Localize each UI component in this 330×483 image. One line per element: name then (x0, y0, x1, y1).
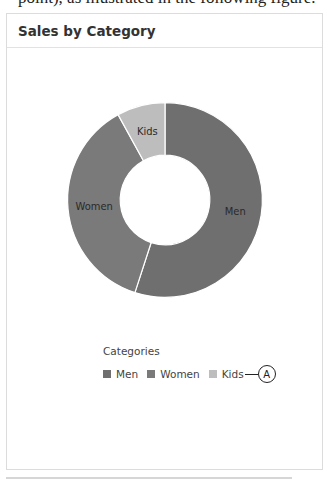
sales-by-category-card: Sales by Category MenWomenKids Categorie… (6, 13, 323, 470)
donut-chart: MenWomenKids (7, 48, 322, 338)
legend-label-men: Men (116, 368, 138, 380)
card-title: Sales by Category (18, 23, 156, 39)
clipped-caption-text: point), as illustrated in the following … (18, 0, 315, 8)
callout-annotation: A (245, 365, 276, 383)
legend-item-women[interactable]: Women (147, 368, 200, 380)
legend-swatch-women (147, 370, 155, 378)
legend-swatch-men (103, 370, 111, 378)
legend-title: Categories (103, 345, 276, 357)
bottom-divider (6, 477, 292, 479)
slice-label-kids: Kids (137, 126, 158, 137)
legend-item-kids[interactable]: Kids (209, 368, 244, 380)
chart-legend: Categories Men Women Kids A (103, 345, 276, 383)
legend-label-kids: Kids (222, 368, 244, 380)
legend-label-women: Women (160, 368, 200, 380)
card-header: Sales by Category (7, 14, 322, 48)
slice-label-men: Men (225, 206, 246, 217)
callout-line (245, 374, 258, 375)
slice-label-women: Women (76, 201, 113, 212)
callout-marker: A (258, 365, 276, 383)
legend-item-men[interactable]: Men (103, 368, 138, 380)
legend-swatch-kids (209, 370, 217, 378)
